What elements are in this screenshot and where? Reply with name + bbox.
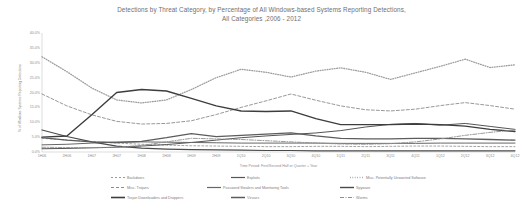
chart-legend: BackdoorsExploitsMisc. Potentially Unwan… (0, 175, 523, 209)
x-tick-label: 2H07 (112, 154, 121, 158)
plot-area (42, 33, 515, 152)
x-tick-label: 2H09 (212, 154, 221, 158)
legend-swatch-icon (350, 175, 364, 180)
series-line (42, 90, 515, 138)
x-tick-label: 3Q12 (486, 154, 495, 158)
x-tick-label: 4Q10 (311, 154, 320, 158)
legend-swatch-icon (231, 175, 245, 180)
y-tick-label: 35.0% (30, 46, 40, 50)
legend-item[interactable]: Exploits (231, 175, 260, 180)
x-tick-label: 4Q11 (411, 154, 420, 158)
legend-label: Backdoors (127, 176, 144, 180)
legend-swatch-icon (340, 195, 354, 200)
legend-label: Trojan Downloaders and Droppers (127, 196, 183, 200)
y-tick-label: 10.0% (30, 120, 40, 124)
y-tick-label: 5.0% (32, 135, 40, 139)
legend-item[interactable]: Misc. Trojans (111, 185, 149, 190)
x-tick-label: 1H08 (137, 154, 146, 158)
legend-swatch-icon (340, 185, 354, 190)
y-tick-label: 15.0% (30, 105, 40, 109)
x-tick-label: 1Q12 (436, 154, 445, 158)
chart-lines (42, 33, 515, 152)
y-tick-label: 40.0% (30, 31, 40, 35)
legend-label: Misc. Trojans (127, 186, 149, 190)
x-tick-label: 4Q12 (511, 154, 520, 158)
legend-row: BackdoorsExploitsMisc. Potentially Unwan… (0, 175, 523, 185)
x-tick-label: 1Q10 (237, 154, 246, 158)
x-tick-label: 2Q11 (361, 154, 370, 158)
chart-title-line2: All Categories ,2006 - 2012 (0, 15, 523, 24)
legend-label: Worms (356, 196, 368, 200)
legend-row: Misc. TrojansPassword Stealers and Monit… (0, 185, 523, 195)
x-tick-label: 2H08 (162, 154, 171, 158)
x-tick-label: 1Q11 (336, 154, 345, 158)
x-axis-tick-labels: 1H062H061H072H071H082H081H092H091Q102Q10… (42, 154, 515, 163)
legend-row: Trojan Downloaders and DroppersVirusesWo… (0, 195, 523, 205)
legend-label: Password Stealers and Monitoring Tools (223, 186, 289, 190)
x-tick-label: 3Q10 (287, 154, 296, 158)
legend-item[interactable]: Backdoors (111, 175, 144, 180)
x-tick-label: 1H09 (187, 154, 196, 158)
legend-item[interactable]: Misc. Potentially Unwanted Software (350, 175, 426, 180)
legend-swatch-icon (111, 175, 125, 180)
x-tick-label: 2Q12 (461, 154, 470, 158)
legend-label: Spyware (356, 186, 370, 190)
y-tick-label: 20.0% (30, 91, 40, 95)
y-axis-tick-labels: 0.0%5.0%10.0%15.0%20.0%25.0%30.0%35.0%40… (14, 33, 40, 152)
x-tick-label: 2H06 (63, 154, 72, 158)
legend-label: Viruses (247, 196, 259, 200)
x-tick-label: 2Q10 (262, 154, 271, 158)
x-tick-label: 1H06 (38, 154, 47, 158)
legend-item[interactable]: Password Stealers and Monitoring Tools (207, 185, 289, 190)
legend-swatch-icon (111, 195, 125, 200)
legend-swatch-icon (207, 185, 221, 190)
chart-container: Detections by Threat Category, by Percen… (0, 0, 523, 218)
legend-swatch-icon (231, 195, 245, 200)
x-tick-label: 3Q11 (386, 154, 395, 158)
legend-item[interactable]: Worms (340, 195, 368, 200)
x-axis-title: Time Period: First/Second Half or Quarte… (42, 164, 515, 168)
chart-title: Detections by Threat Category, by Percen… (0, 6, 523, 23)
y-tick-label: 25.0% (30, 76, 40, 80)
y-tick-label: 30.0% (30, 61, 40, 65)
legend-item[interactable]: Trojan Downloaders and Droppers (111, 195, 183, 200)
chart-title-line1: Detections by Threat Category, by Percen… (117, 6, 406, 13)
legend-label: Misc. Potentially Unwanted Software (366, 176, 426, 180)
legend-label: Exploits (247, 176, 260, 180)
legend-item[interactable]: Viruses (231, 195, 259, 200)
legend-item[interactable]: Spyware (340, 185, 370, 190)
x-tick-label: 1H07 (87, 154, 96, 158)
legend-swatch-icon (111, 185, 125, 190)
